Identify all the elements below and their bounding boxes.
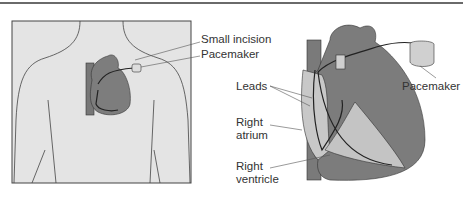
label-pacemaker-right: Pacemaker [402, 80, 460, 93]
diagram-canvas [0, 0, 463, 206]
label-right-ventricle-2: ventricle [236, 173, 279, 186]
label-pacemaker-left: Pacemaker [201, 48, 259, 61]
label-right-atrium-1: Right [236, 116, 263, 129]
label-right-atrium-2: atrium [236, 129, 268, 142]
label-right-ventricle-1: Right [236, 160, 263, 173]
label-small-incision: Small incision [201, 33, 271, 46]
label-leads: Leads [236, 80, 267, 93]
